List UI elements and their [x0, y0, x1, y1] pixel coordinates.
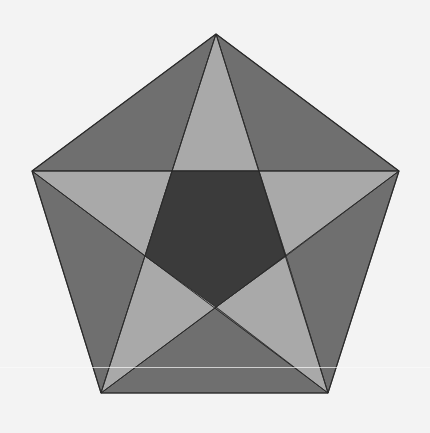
pentagram-diagram: [0, 0, 430, 433]
scan-line-artifact: [0, 367, 430, 368]
